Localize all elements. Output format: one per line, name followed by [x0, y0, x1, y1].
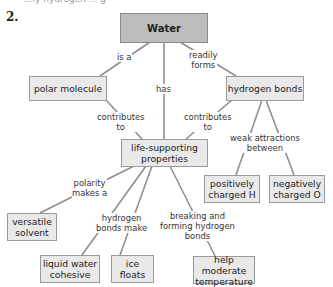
link-text: readily	[189, 50, 217, 60]
link-text: contributes	[97, 112, 145, 122]
node-text: versatile	[12, 216, 52, 227]
node-negatively-charged-o: negatively charged O	[269, 175, 325, 203]
node-text: floats	[120, 269, 145, 280]
node-positively-charged-h: positively charged H	[204, 175, 260, 203]
link-text: hydrogen	[96, 213, 147, 223]
link-text: weak attractions	[230, 133, 300, 143]
link-text: to	[184, 122, 232, 132]
node-text: solvent	[15, 227, 48, 238]
link-label-weak-attractions: weak attractions between	[230, 133, 300, 153]
link-text: is a	[117, 52, 132, 62]
link-label-readily-forms: readily forms	[189, 50, 217, 70]
link-text: has	[156, 84, 171, 94]
link-label-breaking-forming: breaking and forming hydrogen bonds	[160, 211, 235, 241]
node-versatile-solvent: versatile solvent	[7, 213, 57, 241]
node-text: polar molecule	[34, 83, 102, 94]
node-liquid-water-cohesive: liquid water cohesive	[40, 255, 100, 283]
node-text: charged H	[208, 189, 255, 200]
link-text: between	[230, 143, 300, 153]
node-text: temperature	[195, 276, 253, 287]
question-number: 2.	[6, 10, 19, 24]
link-label-has: has	[156, 84, 171, 94]
link-text: bonds make	[96, 223, 147, 233]
node-text: life-supporting	[131, 142, 198, 153]
node-text: liquid water	[43, 258, 97, 269]
node-text: hydrogen bonds	[228, 83, 302, 94]
link-label-is-a: is a	[117, 52, 132, 62]
link-text: forms	[189, 60, 217, 70]
link-text: forming hydrogen	[160, 221, 235, 231]
link-text: contributes	[184, 112, 232, 122]
node-ice-floats: ice floats	[111, 255, 154, 283]
node-text: help moderate	[194, 254, 254, 276]
node-life-supporting-properties: life-supporting properties	[121, 139, 208, 167]
link-text: polarity	[72, 178, 107, 188]
node-text: Water	[147, 23, 181, 34]
link-text: breaking and	[160, 211, 235, 221]
node-water: Water	[120, 13, 208, 43]
node-text: ice	[126, 258, 139, 269]
link-text: to	[97, 122, 145, 132]
node-text: cohesive	[50, 269, 91, 280]
link-label-polarity: polarity makes a	[72, 178, 107, 198]
node-help-moderate-temperature: help moderate temperature	[193, 256, 255, 284]
node-text: negatively	[273, 178, 321, 189]
link-label-hydrogen-bonds-make: hydrogen bonds make	[96, 213, 147, 233]
link-text: makes a	[72, 188, 107, 198]
link-label-contributes-left: contributes to	[97, 112, 145, 132]
node-text: properties	[141, 153, 188, 164]
node-polar-molecule: polar molecule	[29, 76, 107, 101]
cut-off-caption: ...ly hydrogen ... g	[24, 0, 106, 4]
link-label-contributes-right: contributes to	[184, 112, 232, 132]
link-text: bonds	[160, 231, 235, 241]
node-hydrogen-bonds: hydrogen bonds	[226, 76, 304, 101]
node-text: positively	[210, 178, 254, 189]
node-text: charged O	[273, 189, 321, 200]
